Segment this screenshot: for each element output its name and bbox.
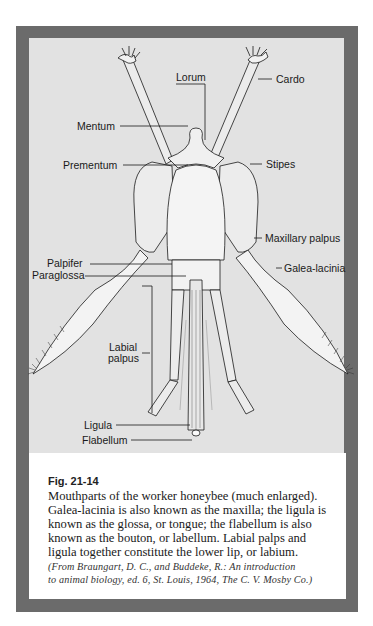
caption-line: known as the bouton, or labellum. Labial… [48,531,306,546]
caption-line: Galea-lacinia is also known as the maxil… [48,503,326,518]
citation-line: to animal biology, ed. 6, St. Louis, 196… [48,574,312,585]
label-stipes: Stipes [266,158,295,170]
leader-labial-palpus [142,286,152,413]
caption-line: known as the glossa, or tongue; the flab… [48,517,312,532]
label-ligula: Ligula [84,419,112,431]
caption-line: ligula together constitute the lower lip… [48,545,298,560]
label-galea-lacinia: Galea-lacinia [284,262,345,274]
cardo-right [209,46,268,162]
label-labial-palpus-line2: palpus [108,352,139,364]
labial-palpus-right-segment [228,380,254,414]
label-maxillary-palpus: Maxillary palpus [265,232,340,244]
figure-number: Fig. 21-14 [48,475,99,487]
cardo-left [118,46,173,164]
flabellum-shape [192,430,200,436]
label-palpifer: Palpifer [47,257,83,269]
labial-palpus-left-segment [148,380,178,416]
label-paraglossa: Paraglossa [32,269,85,281]
labial-palpus-left [170,290,184,380]
prementum-shape [167,165,225,260]
label-lorum: Lorum [176,71,206,83]
label-prementum: Prementum [63,159,118,171]
label-flabellum: Flabellum [82,434,128,446]
labial-palpus-right [210,290,236,382]
caption-line: Mouthparts of the worker honeybee (much … [48,489,317,504]
citation-line: (From Braungart, D. C., and Buddeke, R.:… [48,561,295,572]
label-mentum: Mentum [77,120,115,132]
label-cardo: Cardo [276,73,305,85]
